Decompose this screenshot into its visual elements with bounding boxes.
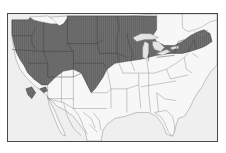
lake-michigan xyxy=(143,42,149,60)
map-canvas xyxy=(8,14,217,141)
range-map xyxy=(7,13,218,142)
